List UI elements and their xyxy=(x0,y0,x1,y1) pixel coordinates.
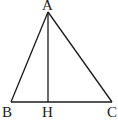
label-b: B xyxy=(2,104,12,120)
segment-ac xyxy=(48,12,112,102)
label-a: A xyxy=(42,0,53,13)
segment-ab xyxy=(11,12,48,102)
label-c: C xyxy=(107,104,117,120)
triangle-diagram: A B H C xyxy=(0,0,118,120)
label-h: H xyxy=(42,104,53,120)
